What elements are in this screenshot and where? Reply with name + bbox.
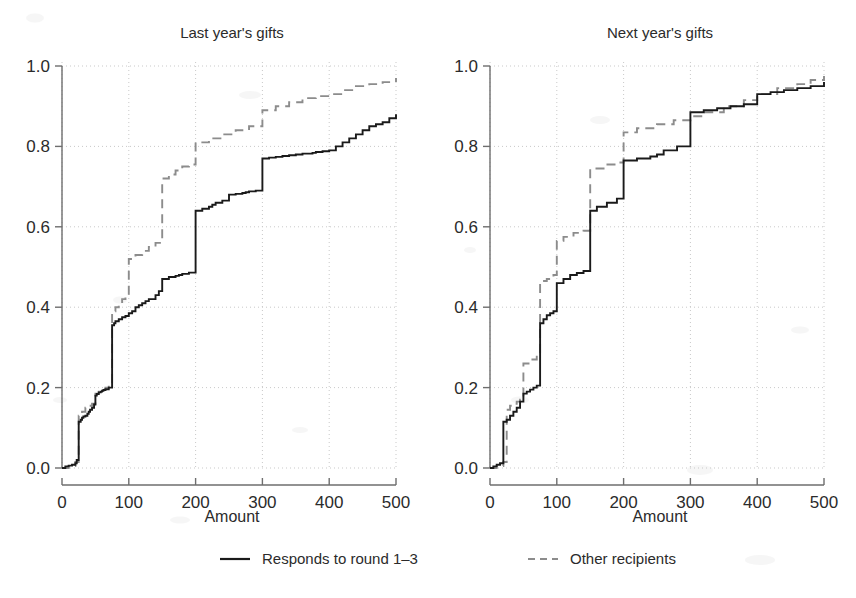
y-tick-label: 0.2 <box>26 379 50 398</box>
x-tick-label: 400 <box>743 493 771 512</box>
legend-label-responds: Responds to round 1–3 <box>262 550 418 567</box>
y-tick-label: 0.2 <box>454 379 478 398</box>
paper-speck <box>292 427 308 433</box>
panel-title-next-year: Next year's gifts <box>607 24 713 41</box>
series-responds-next-year <box>490 82 824 468</box>
series-responds-last-year <box>62 114 396 468</box>
paper-speck <box>26 14 44 23</box>
paper-speck <box>590 116 610 124</box>
y-tick-label: 0.0 <box>26 459 50 478</box>
x-axis-title-next-year: Amount <box>632 508 688 525</box>
y-tick-label: 0.6 <box>454 218 478 237</box>
x-tick-label: 0 <box>57 493 66 512</box>
series-other-next-year <box>490 76 824 468</box>
x-axis-title-last-year: Amount <box>204 508 260 525</box>
paper-speck <box>745 555 775 565</box>
paper-speck <box>170 517 190 524</box>
legend-label-other: Other recipients <box>570 550 676 567</box>
figure-container: Last year's gifts0.00.20.40.60.81.001002… <box>0 0 856 598</box>
series-other-last-year <box>62 78 396 468</box>
y-tick-label: 0.4 <box>454 298 478 317</box>
y-tick-label: 0.8 <box>26 137 50 156</box>
paper-speck <box>464 247 476 253</box>
x-tick-label: 0 <box>485 493 494 512</box>
y-tick-label: 0.4 <box>26 298 50 317</box>
y-tick-label: 1.0 <box>454 57 478 76</box>
x-tick-label: 500 <box>382 493 410 512</box>
y-tick-label: 0.0 <box>454 459 478 478</box>
paper-speck <box>53 397 67 403</box>
y-tick-label: 1.0 <box>26 57 50 76</box>
x-tick-label: 400 <box>315 493 343 512</box>
paper-speck <box>239 91 261 99</box>
cdf-figure-svg: Last year's gifts0.00.20.40.60.81.001002… <box>0 0 856 598</box>
y-tick-label: 0.8 <box>454 137 478 156</box>
panel-title-last-year: Last year's gifts <box>180 24 284 41</box>
x-tick-label: 500 <box>810 493 838 512</box>
x-tick-label: 100 <box>543 493 571 512</box>
y-tick-label: 0.6 <box>26 218 50 237</box>
paper-speck <box>791 327 809 334</box>
x-tick-label: 100 <box>115 493 143 512</box>
